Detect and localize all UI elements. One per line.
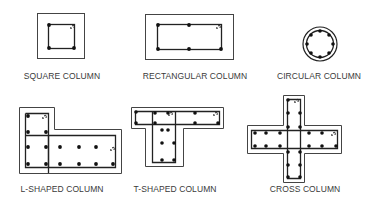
stirrup-hook-icon [42,115,46,119]
label-square-column: SQUARE COLUMN [24,71,100,81]
t-shaped-column-section [132,108,224,167]
rebar-dots [156,23,223,51]
label-cross-column: CROSS COLUMN [270,184,341,194]
rectangular-column-section [146,15,234,60]
rebar-dots [134,110,220,162]
stirrup-hook-icon [70,25,74,29]
cross-column-section [248,96,342,183]
rebar-dots [305,29,335,59]
label-t-shaped-column: T-SHAPED COLUMN [133,184,216,194]
stirrup-hook-icon [216,25,220,29]
stirrup-hook-icon [110,147,114,151]
label-l-shaped-column: L-SHAPED COLUMN [20,184,103,194]
label-rectangular-column: RECTANGULAR COLUMN [143,71,248,81]
stirrup-hook-icon [213,112,217,116]
rebar-dots [253,98,338,179]
l-shaped-column-section [20,108,122,174]
rebar-dots [47,23,76,50]
circular-column-section [303,27,337,61]
label-circular-column: CIRCULAR COLUMN [277,71,361,81]
rebar-dots [26,114,115,166]
column-sections-diagram [0,0,377,208]
stirrup-hook-icon [331,132,335,136]
square-column-section [38,14,85,59]
